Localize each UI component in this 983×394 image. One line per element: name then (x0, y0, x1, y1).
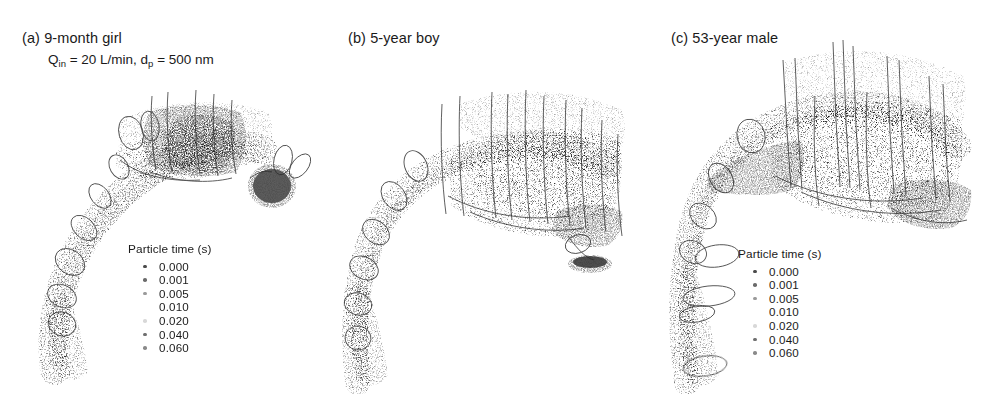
panel-b-particle-cloud (344, 92, 625, 386)
panel-c: (c) 53-year male (655, 0, 983, 394)
legend-marker-icon (140, 278, 150, 282)
legend-row-label: 0.005 (159, 287, 189, 301)
legend-marker-icon (140, 292, 150, 296)
panel-c-title: (c) 53-year male (671, 30, 778, 47)
legend-row-label: 0.001 (159, 273, 189, 287)
legend-row: 0.005 (128, 287, 212, 301)
legend-marker-icon (140, 346, 150, 350)
subtitle-flow-symbol: Q (48, 52, 59, 67)
subtitle-diameter-subscript: p (148, 58, 153, 69)
panel-a: (a) 9-month girl Qin = 20 L/min, dp = 50… (0, 0, 330, 394)
panel-c-particle-cloud (675, 51, 971, 385)
panel-a-outlet-bolus (248, 164, 296, 208)
legend-row-label: 0.010 (159, 300, 189, 314)
panel-a-legend: Particle time (s) 0.0000.0010.0050.0100.… (128, 243, 212, 355)
subtitle-flow-value: = 20 L/min, d (66, 52, 148, 67)
legend-marker-icon (140, 305, 150, 309)
subtitle-flow-subscript: in (59, 58, 66, 69)
legend-row-label: 0.000 (159, 260, 189, 274)
panel-c-geometry-outline (676, 40, 967, 379)
panel-a-subtitle: Qin = 20 L/min, dp = 500 nm (48, 51, 214, 68)
legend-row-label: 0.060 (159, 341, 189, 355)
panel-a-legend-rows: 0.0000.0010.0050.0100.0200.0400.060 (128, 260, 212, 355)
legend-row: 0.010 (128, 300, 212, 314)
panel-b-title: (b) 5-year boy (348, 30, 440, 47)
legend-row-label: 0.020 (159, 314, 189, 328)
panel-b-airway-rendering (330, 0, 655, 394)
panel-c-airway-rendering (655, 0, 983, 394)
legend-marker-icon (140, 265, 150, 269)
figure-panel-container: (a) 9-month girl Qin = 20 L/min, dp = 50… (0, 0, 983, 394)
panel-b-geometry-outline (342, 90, 622, 352)
legend-row: 0.000 (128, 260, 212, 274)
legend-row: 0.001 (128, 273, 212, 287)
panel-b-outlet-bolus (568, 255, 612, 273)
legend-row: 0.040 (128, 328, 212, 342)
panel-b: (b) 5-year boy (330, 0, 655, 394)
legend-row: 0.020 (128, 314, 212, 328)
legend-row-label: 0.040 (159, 328, 189, 342)
panel-a-legend-title: Particle time (s) (128, 243, 212, 257)
legend-row: 0.060 (128, 341, 212, 355)
panel-a-title: (a) 9-month girl (22, 30, 122, 47)
legend-marker-icon (140, 319, 150, 323)
legend-marker-icon (140, 333, 150, 337)
subtitle-diameter-value: = 500 nm (153, 52, 213, 67)
